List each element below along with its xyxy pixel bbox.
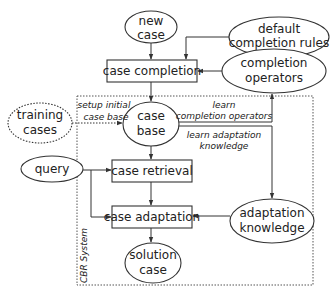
svg-text:base: base xyxy=(137,124,166,138)
node-case-adaptation: case adaptation xyxy=(104,206,200,228)
svg-text:case: case xyxy=(139,263,167,277)
cbr-system-label: CBR System xyxy=(79,228,89,283)
svg-text:operators: operators xyxy=(245,71,303,85)
svg-text:completion operators: completion operators xyxy=(176,111,273,121)
node-training-cases: training cases xyxy=(8,103,72,143)
svg-text:knowledge: knowledge xyxy=(239,221,304,235)
svg-text:case: case xyxy=(137,28,165,42)
svg-text:cases: cases xyxy=(23,123,57,137)
label-setup-initial-case-base: setup initial case base xyxy=(78,100,131,122)
svg-text:new: new xyxy=(139,14,164,28)
svg-text:case adaptation: case adaptation xyxy=(104,210,200,224)
svg-text:learn: learn xyxy=(213,100,236,110)
cbr-diagram: CBR System new case default completion r… xyxy=(0,0,331,301)
svg-text:completion: completion xyxy=(241,56,308,70)
svg-text:case base: case base xyxy=(83,112,128,122)
node-case-retrieval: case retrieval xyxy=(111,160,193,182)
svg-text:knowledge: knowledge xyxy=(200,141,249,151)
svg-text:case retrieval: case retrieval xyxy=(111,164,193,178)
svg-text:completion rules: completion rules xyxy=(229,36,329,50)
svg-text:training: training xyxy=(17,108,64,122)
svg-text:solution: solution xyxy=(129,248,177,262)
svg-text:learn adaptation: learn adaptation xyxy=(187,130,262,140)
svg-text:setup initial: setup initial xyxy=(78,100,131,110)
label-learn-completion-operators: learn completion operators xyxy=(176,100,273,121)
svg-text:adaptation: adaptation xyxy=(240,206,305,220)
node-solution-case: solution case xyxy=(125,243,181,283)
svg-text:query: query xyxy=(35,162,70,176)
node-case-base: case base xyxy=(123,102,179,146)
svg-text:case completion: case completion xyxy=(103,64,201,78)
label-learn-adaptation-knowledge: learn adaptation knowledge xyxy=(187,130,262,151)
node-completion-operators: completion operators xyxy=(222,49,326,93)
edge-defaultrules-completion xyxy=(186,37,229,59)
node-adaptation-knowledge: adaptation knowledge xyxy=(230,199,314,243)
node-case-completion: case completion xyxy=(103,60,201,82)
node-query: query xyxy=(21,156,83,182)
svg-text:case: case xyxy=(137,109,165,123)
svg-text:default: default xyxy=(258,22,301,36)
node-new-case: new case xyxy=(125,11,177,43)
cbr-system-boundary xyxy=(77,96,313,285)
